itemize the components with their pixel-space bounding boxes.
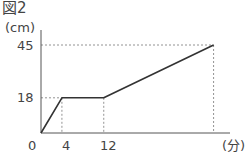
line-chart [0, 0, 247, 158]
series-line-height [41, 45, 214, 133]
